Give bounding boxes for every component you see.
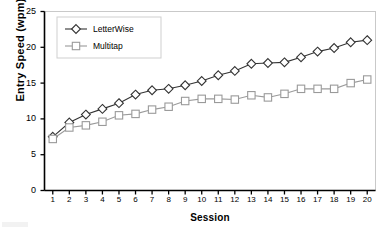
x-tick-label: 15 — [275, 196, 293, 204]
x-tick-label: 10 — [193, 196, 211, 204]
y-tick-label: 20 — [16, 43, 36, 52]
x-tick-label: 19 — [342, 196, 360, 204]
x-tick-label: 1 — [44, 196, 62, 204]
x-tick-label: 3 — [77, 196, 95, 204]
x-tick-label: 11 — [209, 196, 227, 204]
x-tick-label: 7 — [143, 196, 161, 204]
series-multitap — [49, 76, 371, 143]
y-tick-label: 5 — [16, 150, 36, 159]
x-tick-label: 12 — [226, 196, 244, 204]
x-tick-label: 4 — [93, 196, 111, 204]
x-tick-label: 8 — [160, 196, 178, 204]
scan-artifact — [2, 222, 28, 227]
x-tick-label: 18 — [325, 196, 343, 204]
x-tick-label: 6 — [127, 196, 145, 204]
chart-figure: Entry Speed (wpm) Session LetterWiseMult… — [0, 0, 385, 232]
x-tick-label: 14 — [259, 196, 277, 204]
legend-label: LetterWise — [93, 24, 134, 34]
x-tick-label: 2 — [60, 196, 78, 204]
y-tick-label: 10 — [16, 114, 36, 123]
x-tick-label: 17 — [309, 196, 327, 204]
x-tick-label: 5 — [110, 196, 128, 204]
y-tick-label: 0 — [16, 186, 36, 195]
x-tick-label: 20 — [358, 196, 376, 204]
x-tick-label: 9 — [176, 196, 194, 204]
y-tick-label: 15 — [16, 79, 36, 88]
legend: LetterWiseMultitap — [57, 17, 161, 58]
legend-label: Multitap — [93, 41, 123, 51]
y-tick-label: 25 — [16, 7, 36, 16]
x-tick-label: 16 — [292, 196, 310, 204]
x-tick-label: 13 — [242, 196, 260, 204]
